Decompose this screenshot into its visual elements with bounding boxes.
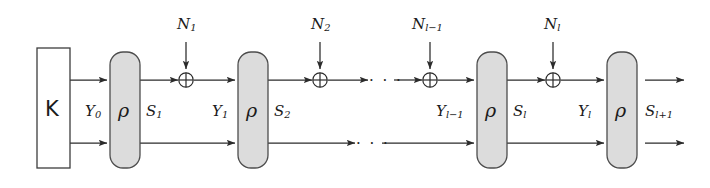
state-label-Ylm1: Yl−1 — [436, 104, 464, 120]
state-label-Sl: Sl — [513, 104, 526, 120]
state-label-Yl: Yl — [578, 104, 591, 120]
rho-block-4-label: ρ — [615, 101, 626, 120]
state-label-S1: S1 — [146, 104, 163, 120]
nonce-label-4: Nl — [544, 17, 560, 33]
xor-node-1 — [179, 73, 193, 87]
ellipsis-top: · · · — [369, 73, 403, 88]
nonce-label-1: N1 — [177, 17, 196, 33]
state-label-Slp1: Sl+1 — [645, 104, 673, 120]
nonce-label-3: Nl−1 — [412, 17, 443, 33]
ellipsis-bottom: · · · — [356, 136, 390, 151]
rho-block-1-label: ρ — [118, 101, 129, 120]
diagram-canvas — [0, 0, 710, 188]
state-label-Y0: Y0 — [85, 104, 101, 120]
rho-block-3-label: ρ — [485, 101, 496, 120]
rho-block-2-label: ρ — [246, 101, 257, 120]
state-label-Y1: Y1 — [212, 104, 228, 120]
key-block-label: K — [45, 97, 59, 121]
xor-node-3 — [423, 73, 437, 87]
nonce-label-2: N2 — [311, 17, 330, 33]
xor-node-2 — [313, 73, 327, 87]
xor-node-4 — [546, 73, 560, 87]
state-label-S2: S2 — [274, 104, 291, 120]
